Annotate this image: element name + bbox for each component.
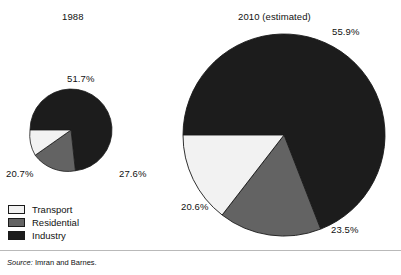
chart-legend: Transport Residential Industry	[8, 203, 79, 242]
legend-label-industry: Industry	[32, 230, 66, 241]
legend-item-transport: Transport	[8, 203, 79, 216]
label-2010-industry-pct: 55.9%	[332, 26, 359, 37]
legend-label-transport: Transport	[32, 204, 72, 215]
label-2010-residential-pct: 23.5%	[331, 224, 358, 235]
chart-title-1988: 1988	[62, 11, 84, 22]
footer-divider	[0, 250, 401, 251]
label-2010-transport-pct: 20.6%	[181, 201, 208, 212]
legend-item-industry: Industry	[8, 229, 79, 242]
label-1988-industry-pct: 51.7%	[67, 73, 94, 84]
chart-title-2010: 2010 (estimated)	[238, 11, 311, 22]
label-1988-residential-pct: 27.6%	[119, 168, 146, 179]
legend-swatch-industry	[8, 231, 25, 240]
legend-swatch-residential	[8, 218, 25, 227]
legend-label-residential: Residential	[32, 217, 79, 228]
legend-swatch-transport	[8, 205, 25, 214]
source-text: Imran and Barnes.	[33, 258, 97, 267]
source-note: Source: Imran and Barnes.	[7, 258, 97, 267]
legend-item-residential: Residential	[8, 216, 79, 229]
pie-chart-figure: 1988 2010 (estimated) 51.7% 27.6% 20.7% …	[0, 0, 401, 275]
label-1988-transport-pct: 20.7%	[6, 168, 33, 179]
source-prefix: Source:	[7, 258, 33, 267]
